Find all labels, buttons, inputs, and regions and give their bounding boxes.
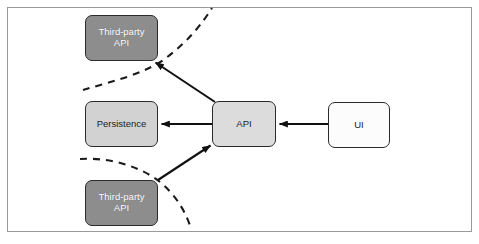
node-label: Third-party API [99,27,145,48]
node-label: UI [354,120,364,131]
edge-api-to-third-party-top [156,63,216,103]
node-third-party-api-bottom[interactable]: Third-party API [85,180,158,226]
node-third-party-api-top[interactable]: Third-party API [85,15,158,61]
node-label: API [236,119,251,130]
edge-third-party-bottom-to-api [158,146,211,181]
node-label: Third-party API [99,192,145,213]
node-label: Persistence [97,119,147,130]
diagram-page: Third-party API Persistence Third-party … [0,0,479,244]
node-ui[interactable]: UI [328,102,390,148]
node-persistence[interactable]: Persistence [85,101,158,147]
node-api[interactable]: API [212,101,276,147]
